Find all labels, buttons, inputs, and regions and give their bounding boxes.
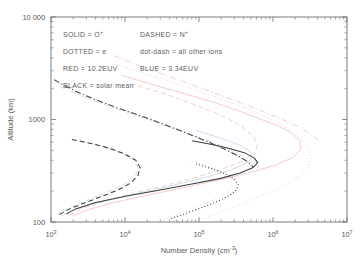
x-axis-title: Number Density (cm-3): [161, 245, 238, 255]
chart-figure: 103104105106107100100010 000Number Densi…: [0, 0, 362, 263]
series-curve-other-black: [54, 80, 253, 167]
x-tick-label: 103: [45, 229, 56, 239]
legend-layer: SOLID = O+DASHED = N+DOTTED = edot-dash …: [63, 29, 223, 89]
legend-entry-red: RED = 10.2EUV: [63, 65, 118, 72]
x-tick-label: 107: [341, 229, 352, 239]
y-tick-label: 1000: [29, 115, 45, 124]
legend-entry-solid: SOLID = O+: [63, 29, 103, 38]
series-curve-other-blue: [59, 86, 245, 157]
curves-layer: [54, 56, 319, 220]
x-tick-label: 106: [267, 229, 278, 239]
legend-entry-blue: BLUE = 3.34EUV: [140, 65, 198, 72]
legend-entry-black: BLACK = solar mean: [63, 82, 134, 89]
x-tick-label: 104: [119, 229, 130, 239]
legend-entry-dotted: DOTTED = e: [63, 48, 107, 55]
plot-canvas: 103104105106107100100010 000Number Densi…: [0, 0, 362, 263]
y-tick-label: 100: [33, 218, 45, 227]
series-curve-Nplus-black: [59, 139, 140, 214]
series-curve-Nplus-blue: [57, 143, 138, 215]
legend-entry-dashed: DASHED = N+: [140, 29, 188, 38]
series-curve-e-black: [171, 164, 238, 219]
x-tick-label: 105: [193, 229, 204, 239]
y-axis-title: Altitude (km): [6, 98, 15, 141]
y-tick-label: 10 000: [22, 13, 45, 22]
legend-entry-dotdash: dot-dash = all other ions: [140, 48, 223, 55]
